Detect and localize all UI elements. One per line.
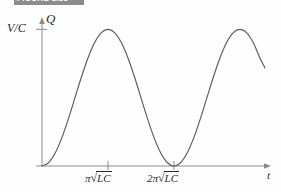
- tick1-radicand: LC: [96, 171, 111, 184]
- figure-container: FIGURE 1.55 V/C Q t π√LC 2π√LC: [0, 0, 281, 192]
- x-axis-arrow-icon: [264, 163, 271, 169]
- x-tick-label-pi-sqrt-lc: π√LC: [85, 172, 112, 184]
- tick2-radicand: LC: [164, 171, 179, 184]
- x-axis-label-t: t: [267, 170, 270, 181]
- tick2-coefficient: 2π: [147, 172, 158, 184]
- y-axis-tick-label-vc: V/C: [7, 22, 26, 34]
- plot-area: [0, 0, 281, 192]
- charge-curve: [42, 29, 265, 166]
- x-tick-label-2pi-sqrt-lc: 2π√LC: [147, 172, 179, 184]
- y-axis-arrow-icon: [39, 17, 45, 24]
- y-axis-label-q: Q: [46, 12, 55, 25]
